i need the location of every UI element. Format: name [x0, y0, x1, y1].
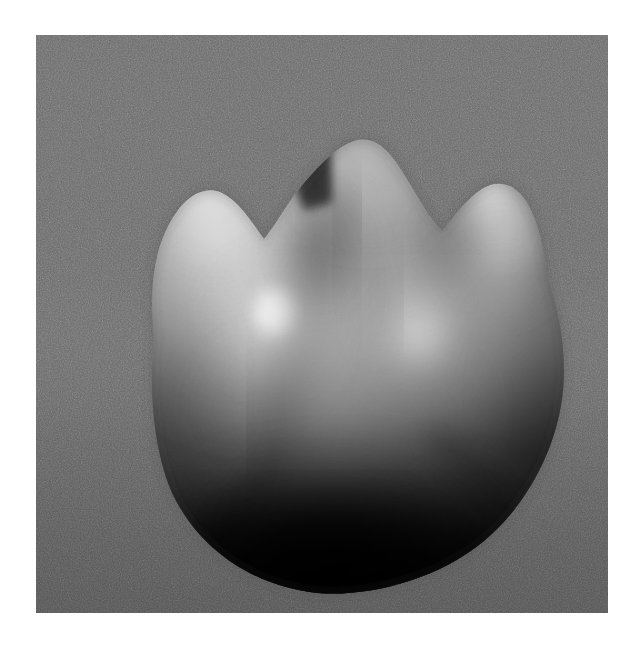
image-canvas: Rendered 3D Surface (Grayscale Shading) [0, 0, 642, 647]
grain-overlay-2 [36, 35, 608, 613]
render-region [36, 35, 608, 613]
surface-render-svg [36, 35, 608, 613]
